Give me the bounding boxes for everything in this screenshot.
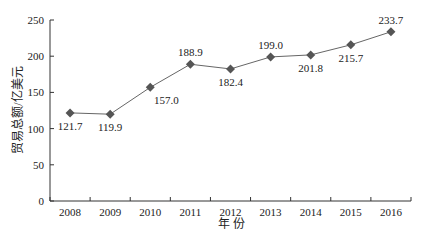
diamond-marker — [146, 83, 155, 92]
line-chart: 050100150200250 200820092010201120122013… — [0, 0, 422, 242]
diamond-marker — [66, 108, 75, 117]
x-tick-label: 2013 — [260, 206, 283, 218]
y-tick-label: 100 — [28, 123, 45, 135]
data-label: 182.4 — [218, 76, 243, 88]
diamond-marker — [106, 110, 115, 119]
data-label: 119.9 — [98, 121, 123, 133]
x-axis-title: 年 份 — [218, 217, 245, 231]
x-tick-label: 2008 — [59, 206, 82, 218]
x-tick-label: 2014 — [300, 206, 323, 218]
diamond-marker — [186, 60, 195, 69]
diamond-marker — [226, 64, 235, 73]
diamond-marker — [386, 27, 395, 36]
x-tick-label: 2009 — [99, 206, 122, 218]
data-label: 121.7 — [58, 120, 83, 132]
y-tick-label: 0 — [39, 195, 45, 207]
x-axis: 200820092010201120122013201420152016 — [50, 197, 411, 218]
data-label: 233.7 — [379, 14, 404, 26]
y-tick-label: 150 — [28, 86, 45, 98]
data-series: 121.7119.9157.0188.9182.4199.0201.8215.7… — [58, 14, 404, 133]
data-label: 157.0 — [154, 94, 179, 106]
data-label: 215.7 — [338, 52, 363, 64]
x-tick-label: 2010 — [139, 206, 162, 218]
y-axis: 050100150200250 — [28, 14, 55, 207]
diamond-marker — [266, 52, 275, 61]
data-label: 188.9 — [178, 46, 203, 58]
y-tick-label: 50 — [33, 159, 45, 171]
y-tick-label: 250 — [28, 14, 45, 26]
diamond-marker — [306, 50, 315, 59]
y-tick-label: 200 — [28, 50, 45, 62]
y-axis-title: 贸易总额/亿美元 — [10, 66, 25, 153]
x-tick-label: 2011 — [180, 206, 202, 218]
x-tick-label: 2016 — [380, 206, 403, 218]
data-label: 199.0 — [258, 39, 283, 51]
x-tick-label: 2015 — [340, 206, 363, 218]
diamond-marker — [346, 40, 355, 49]
data-label: 201.8 — [298, 62, 323, 74]
